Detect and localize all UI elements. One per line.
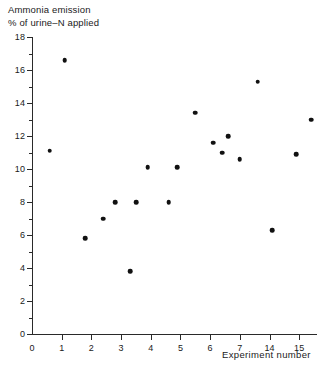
y-axis-tick	[27, 103, 32, 104]
y-axis-tick-label: 14	[15, 98, 25, 108]
data-point	[48, 149, 53, 154]
data-point	[128, 269, 133, 274]
y-axis-tick-label: 12	[15, 131, 25, 141]
y-axis-tick	[27, 301, 32, 302]
y-axis-minor-tick	[29, 87, 32, 88]
x-axis-tick	[62, 335, 63, 340]
x-axis-tick	[121, 335, 122, 340]
y-axis-minor-tick	[29, 219, 32, 220]
data-point	[255, 79, 260, 84]
data-point	[226, 134, 231, 139]
data-point	[211, 140, 216, 145]
x-axis-tick-label: 2	[89, 343, 94, 353]
x-axis-tick	[299, 335, 300, 340]
y-axis-minor-tick	[29, 120, 32, 121]
scatter-plot-figure: Ammonia emission % of urine–N applied 02…	[0, 0, 330, 369]
x-axis-tick-label: 5	[178, 343, 183, 353]
x-axis-tick	[91, 335, 92, 340]
y-axis-tick-label: 18	[15, 32, 25, 42]
y-axis-minor-tick	[29, 285, 32, 286]
x-axis-tick-label: 6	[208, 343, 213, 353]
y-axis-tick-label: 2	[20, 296, 25, 306]
data-point	[166, 200, 171, 205]
data-point	[220, 150, 225, 155]
data-point	[238, 157, 243, 162]
y-axis-tick	[27, 202, 32, 203]
data-point	[294, 152, 299, 157]
data-point	[101, 216, 106, 221]
y-axis-tick-label: 6	[20, 230, 25, 240]
y-axis-tick-label: 4	[20, 263, 25, 273]
data-point	[193, 111, 198, 116]
y-axis-tick-label: 16	[15, 65, 25, 75]
data-point	[145, 165, 150, 170]
figure-title-line-2: % of urine–N applied	[8, 17, 99, 30]
x-axis-tick-label: 3	[119, 343, 124, 353]
y-axis-minor-tick	[29, 186, 32, 187]
y-axis-tick	[27, 268, 32, 269]
x-axis-tick-label: 1	[59, 343, 64, 353]
data-point	[270, 228, 275, 233]
y-axis-tick-label: 8	[20, 197, 25, 207]
data-point	[113, 200, 118, 205]
y-axis-tick-label: 0	[20, 329, 25, 339]
plot-area: 024681012141618012345671415	[32, 37, 317, 334]
data-point	[309, 117, 314, 122]
y-axis-minor-tick	[29, 54, 32, 55]
x-axis-tick	[270, 335, 271, 340]
data-point	[62, 58, 67, 63]
x-axis-line	[32, 334, 317, 335]
x-axis-tick	[151, 335, 152, 340]
x-axis-tick-label: 4	[148, 343, 153, 353]
y-axis-tick	[27, 334, 32, 335]
y-axis-minor-tick	[29, 153, 32, 154]
y-axis-tick	[27, 235, 32, 236]
data-point	[83, 236, 88, 241]
y-axis-tick	[27, 169, 32, 170]
data-point	[175, 165, 180, 170]
figure-title-line-1: Ammonia emission	[8, 4, 99, 17]
x-axis-tick	[240, 335, 241, 340]
y-axis-tick-label: 10	[15, 164, 25, 174]
y-axis-tick	[27, 136, 32, 137]
y-axis-tick	[27, 70, 32, 71]
y-axis-tick	[27, 37, 32, 38]
x-axis-tick	[180, 335, 181, 340]
y-axis-minor-tick	[29, 318, 32, 319]
figure-title: Ammonia emission % of urine–N applied	[8, 4, 99, 29]
x-axis-tick	[210, 335, 211, 340]
y-axis-minor-tick	[29, 252, 32, 253]
x-axis-title: Experiment number	[222, 349, 311, 360]
data-point	[134, 200, 139, 205]
x-axis-tick-label: 0	[29, 343, 34, 353]
